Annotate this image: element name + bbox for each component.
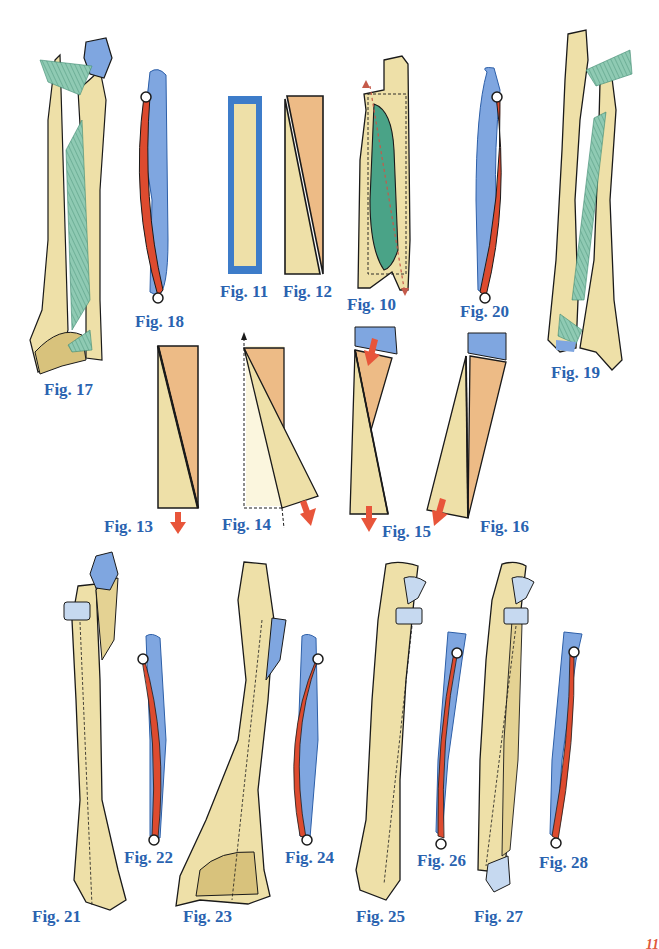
fig-23-bone-illustration [176,562,286,906]
fig-22-rod-illustration [138,634,166,845]
fig-12-split-block-illustration [285,96,323,274]
fig-25-bone-illustration [356,562,426,900]
fig-21-bone-illustration [64,552,126,910]
fig-11-block-illustration [228,96,262,274]
fig-24-label: Fig. 24 [285,848,334,868]
fig-24-rod-illustration [294,634,323,845]
fig-12-label: Fig. 12 [283,282,332,302]
page-number: 11 [646,937,659,949]
fig-28-label: Fig. 28 [539,853,588,873]
illustrations [0,0,659,949]
fig-15-label: Fig. 15 [382,522,431,542]
fig-20-rod-illustration [476,68,502,304]
fig-17-forearm-illustration [30,38,112,374]
fig-17-label: Fig. 17 [44,380,93,400]
fig-26-rod-illustration [436,632,466,849]
fig-10-bone-illustration [358,56,410,296]
fig-18-rod-illustration [139,70,168,303]
fig-19-label: Fig. 19 [551,363,600,383]
fig-14-label: Fig. 14 [222,515,271,535]
textbook-page: Fig. 17 Fig. 18 Fig. 11 Fig. 12 Fig. 10 … [0,0,659,949]
fig-10-label: Fig. 10 [347,295,396,315]
fig-14-rotation-illustration [241,332,318,528]
fig-28-rod-illustration [550,632,582,848]
fig-15-block-illustration [350,327,397,532]
fig-19-forearm-illustration [548,30,632,370]
fig-16-label: Fig. 16 [480,517,529,537]
fig-21-label: Fig. 21 [32,907,81,927]
fig-13-block-illustration [158,346,198,534]
fig-23-label: Fig. 23 [183,907,232,927]
fig-22-label: Fig. 22 [124,848,173,868]
fig-13-label: Fig. 13 [104,517,153,537]
fig-26-label: Fig. 26 [417,851,466,871]
arrow-down-icon [170,512,186,534]
fig-20-label: Fig. 20 [460,302,509,322]
fig-11-label: Fig. 11 [220,282,268,302]
fig-27-label: Fig. 27 [474,907,523,927]
fig-16-block-illustration [427,333,506,526]
fig-25-label: Fig. 25 [356,907,405,927]
fig-27-bone-illustration [478,562,534,892]
arrow-down-icon [300,500,316,526]
fig-18-label: Fig. 18 [135,312,184,332]
